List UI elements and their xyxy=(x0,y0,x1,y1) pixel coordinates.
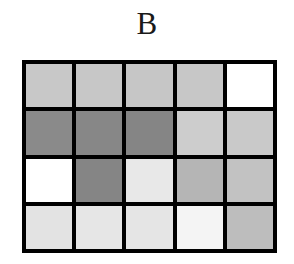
heatmap-cell xyxy=(227,111,273,154)
heatmap-cell xyxy=(76,206,122,249)
heatmap-cell xyxy=(126,159,172,202)
heatmap-cell xyxy=(26,111,72,154)
panel-title: B xyxy=(0,6,294,42)
heatmap-figure: B xyxy=(0,0,294,264)
heatmap-cell xyxy=(177,64,223,107)
heatmap-cell xyxy=(177,159,223,202)
heatmap-cell xyxy=(126,64,172,107)
heatmap-cell xyxy=(26,64,72,107)
heatmap-cell xyxy=(177,206,223,249)
heatmap-cell xyxy=(76,159,122,202)
heatmap-cell xyxy=(76,64,122,107)
heatmap-cell xyxy=(126,206,172,249)
heatmap-cell xyxy=(177,111,223,154)
heatmap-border xyxy=(22,60,277,253)
heatmap-cell xyxy=(227,64,273,107)
heatmap-grid xyxy=(26,64,273,249)
heatmap-cell xyxy=(227,206,273,249)
heatmap-cell xyxy=(227,159,273,202)
heatmap-cell xyxy=(26,159,72,202)
heatmap-cell xyxy=(76,111,122,154)
heatmap-cell xyxy=(126,111,172,154)
heatmap-cell xyxy=(26,206,72,249)
